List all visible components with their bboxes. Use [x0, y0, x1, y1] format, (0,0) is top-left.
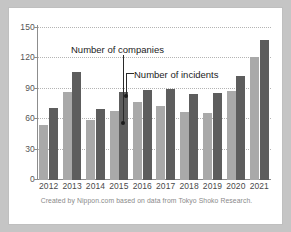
bar-2016-companies [133, 102, 142, 180]
bar-2018-incidents [189, 94, 198, 180]
y-tick-90: 90 [9, 83, 35, 93]
bar-2021-companies [250, 57, 259, 180]
y-tick-60: 60 [9, 113, 35, 123]
bar-group-2021 [250, 21, 269, 180]
leader-line-companies [123, 55, 124, 123]
y-tick-30: 30 [9, 144, 35, 154]
x-axis-label-2018: 2018 [177, 181, 200, 191]
bar-2016-incidents [143, 90, 152, 180]
bar-2017-companies [156, 106, 165, 180]
y-tick-label: 60 [11, 113, 35, 123]
leader-dot-companies [121, 121, 125, 125]
y-tick-label: 30 [11, 144, 35, 154]
chart-caption: Created by Nippon.com based on data from… [9, 197, 284, 204]
x-axis-label-2020: 2020 [224, 181, 247, 191]
bar-2021-incidents [260, 40, 269, 180]
bar-group-2019 [203, 21, 222, 180]
bar-2017-incidents [166, 89, 175, 180]
bar-chart: 0306090120150 20122013201420152016201720… [9, 8, 284, 226]
x-axis-label-2014: 2014 [84, 181, 107, 191]
bar-group-2012 [39, 21, 58, 180]
bar-2015-companies [110, 111, 119, 180]
y-tick-label: 120 [11, 52, 35, 62]
x-axis-label-2015: 2015 [107, 181, 130, 191]
bar-2014-companies [86, 120, 95, 180]
y-tick-120: 120 [9, 52, 35, 62]
bar-2020-companies [227, 91, 236, 180]
x-axis-label-2017: 2017 [154, 181, 177, 191]
leader-line-incidents-horizontal [126, 73, 134, 74]
annotation-companies: Number of companies [71, 44, 164, 55]
bar-2012-companies [39, 125, 48, 180]
bar-2013-incidents [72, 72, 81, 180]
leader-dot-incidents [124, 94, 128, 98]
y-tick-label: 90 [11, 83, 35, 93]
bar-2019-incidents [213, 93, 222, 180]
x-axis-label-2012: 2012 [37, 181, 60, 191]
bar-2019-companies [203, 113, 212, 180]
bar-2020-incidents [236, 76, 245, 180]
bar-2018-companies [180, 112, 189, 180]
bar-2013-companies [63, 92, 72, 180]
x-axis-label-2021: 2021 [248, 181, 271, 191]
bar-group-2020 [227, 21, 246, 180]
outer-frame: 0306090120150 20122013201420152016201720… [0, 0, 291, 232]
bar-group-2018 [180, 21, 199, 180]
y-tick-label: 0 [11, 174, 35, 184]
y-tick-0: 0 [9, 174, 35, 184]
x-axis-label-2016: 2016 [131, 181, 154, 191]
bar-2012-incidents [49, 108, 58, 180]
x-axis-label-2019: 2019 [201, 181, 224, 191]
y-tick-150: 150 [9, 22, 35, 32]
y-tick-label: 150 [11, 22, 35, 32]
chart-card: 0306090120150 20122013201420152016201720… [8, 7, 283, 225]
x-axis-label-2013: 2013 [60, 181, 83, 191]
annotation-incidents: Number of incidents [134, 69, 218, 80]
leader-line-incidents-vertical [126, 73, 127, 96]
bar-2014-incidents [96, 109, 105, 180]
